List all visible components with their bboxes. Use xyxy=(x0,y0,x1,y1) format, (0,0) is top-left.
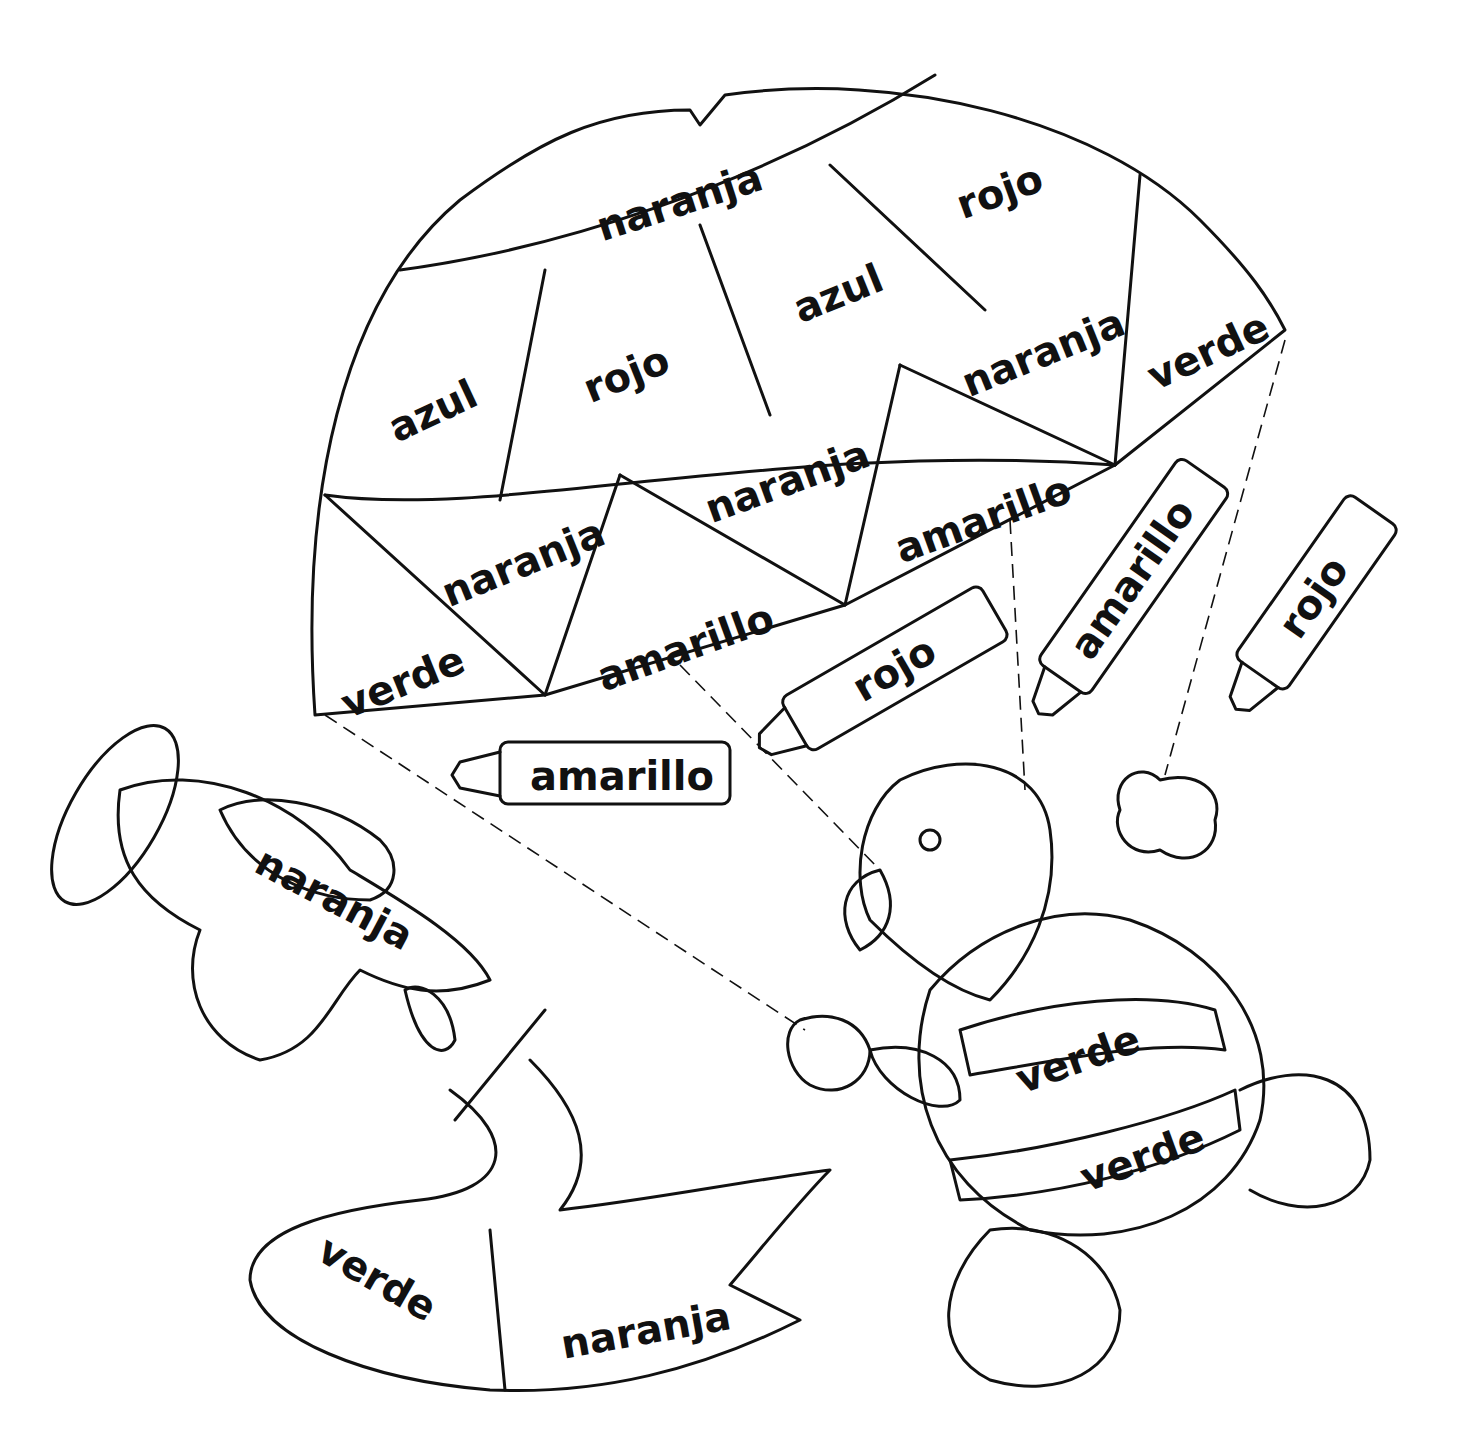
svg-text:amarillo: amarillo xyxy=(1060,490,1203,667)
label-naranja-2: naranja xyxy=(955,299,1131,406)
label-rojo-1: rojo xyxy=(950,154,1049,227)
label-amarillo-2: amarillo xyxy=(591,594,780,700)
label-naranja-1: naranja xyxy=(591,153,768,250)
label-rojo-2: rojo xyxy=(577,336,676,412)
label-verde-1: verde xyxy=(1140,303,1276,399)
parachute: naranja rojo azul rojo azul naranja verd… xyxy=(312,75,1285,727)
crayon-rojo: rojo xyxy=(743,584,1010,774)
turtle: verde verde xyxy=(788,764,1370,1386)
banner: verde naranja xyxy=(250,1060,830,1391)
label-verde-turtle-2: verde xyxy=(1074,1114,1211,1201)
label-naranja-4: naranja xyxy=(435,509,611,616)
airplane: naranja xyxy=(26,706,545,1120)
label-azul-2: azul xyxy=(381,370,484,451)
svg-text:rojo: rojo xyxy=(1269,548,1357,647)
svg-text:amarillo: amarillo xyxy=(530,753,714,799)
crayon-amarillo-horizontal: amarillo xyxy=(452,742,730,804)
label-verde-2: verde xyxy=(335,636,472,727)
label-amarillo-1: amarillo xyxy=(889,466,1078,572)
label-verde-banner: verde xyxy=(310,1226,444,1330)
coloring-page: naranja rojo azul rojo azul naranja verd… xyxy=(0,0,1469,1454)
label-verde-turtle-1: verde xyxy=(1010,1015,1147,1102)
svg-text:rojo: rojo xyxy=(844,627,944,711)
label-naranja-3: naranja xyxy=(699,430,876,532)
crayon-rojo-diagonal: rojo xyxy=(1210,493,1400,727)
label-azul-1: azul xyxy=(787,255,890,332)
label-naranja-banner: naranja xyxy=(557,1292,734,1367)
